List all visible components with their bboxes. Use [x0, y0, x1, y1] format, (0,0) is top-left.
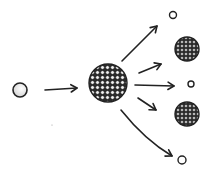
incoming-neutron-neutron-icon [13, 83, 27, 97]
arrow-target-nucleus-to-neutron-middle [135, 82, 174, 89]
fragment-lower-nucleus-icon [175, 102, 199, 126]
fission-diagram [0, 0, 213, 178]
arrow-incoming-neutron-to-target-nucleus [45, 85, 77, 92]
neutron-bottom-neutron-icon [178, 156, 186, 164]
neutron-top-neutron-icon [170, 12, 177, 19]
target-nucleus-nucleus-icon [89, 64, 127, 102]
arrow-target-nucleus-to-fragment-lower [138, 98, 156, 110]
fragment-upper-nucleus-icon [175, 37, 199, 61]
arrow-target-nucleus-to-neutron-bottom [121, 110, 172, 156]
arrow-target-nucleus-to-fragment-upper [139, 63, 161, 73]
neutron-middle-neutron-icon [188, 81, 194, 87]
arrow-target-nucleus-to-neutron-top [122, 26, 157, 61]
stray-dot [51, 124, 52, 125]
